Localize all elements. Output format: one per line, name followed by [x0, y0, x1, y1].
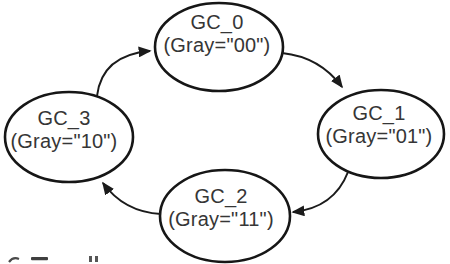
state-name: GC_2 — [168, 185, 274, 208]
cropped-caption-fragment — [9, 256, 98, 262]
state-name: GC_1 — [326, 102, 433, 125]
edge-gc2-to-gc3 — [103, 183, 161, 214]
state-node-label-gc3: GC_3 (Gray="10") — [11, 107, 118, 153]
state-gray-value: (Gray="01") — [326, 125, 433, 148]
edge-gc0-to-gc1 — [282, 53, 342, 87]
state-node-label-gc0: GC_0 (Gray="00") — [164, 11, 271, 57]
state-node-label-gc2: GC_2 (Gray="11") — [168, 185, 274, 231]
state-gray-value: (Gray="11") — [168, 208, 274, 231]
state-name: GC_3 — [11, 107, 118, 130]
state-name: GC_0 — [164, 11, 271, 34]
state-diagram-canvas: GC_0 (Gray="00") GC_1 (Gray="01") GC_2 (… — [0, 0, 450, 264]
edge-gc1-to-gc2 — [293, 172, 348, 212]
state-node-label-gc1: GC_1 (Gray="01") — [326, 102, 433, 148]
edge-gc3-to-gc0 — [97, 51, 150, 96]
state-gray-value: (Gray="10") — [11, 130, 118, 153]
state-gray-value: (Gray="00") — [164, 34, 271, 57]
